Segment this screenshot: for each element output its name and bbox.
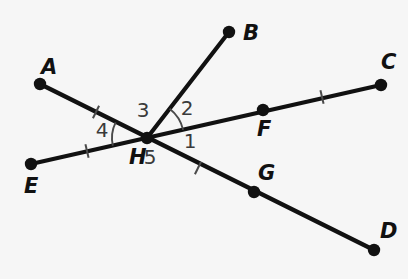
- segment-E-H-F-C: [31, 85, 381, 164]
- tick-marks-group: [85, 90, 323, 174]
- angle-label-1: 1: [184, 129, 197, 153]
- point-label-A: A: [39, 55, 57, 79]
- angle-label-5: 5: [144, 145, 157, 169]
- angle-label-4: 4: [96, 118, 109, 142]
- geometry-canvas: ABCDEFGH 12345: [0, 0, 408, 279]
- point-label-F: F: [257, 117, 272, 141]
- point-dot-D: [368, 244, 380, 256]
- point-dot-C: [375, 79, 387, 91]
- segments-group: [31, 32, 381, 250]
- point-dot-E: [25, 158, 37, 170]
- point-label-G: G: [258, 161, 275, 185]
- angle-label-2: 2: [181, 96, 194, 120]
- point-label-B: B: [243, 21, 259, 45]
- geometry-diagram: ABCDEFGH 12345: [0, 0, 408, 279]
- point-dot-B: [223, 26, 235, 38]
- point-dot-G: [248, 186, 260, 198]
- segment-A-H-G-D: [40, 84, 374, 250]
- point-label-E: E: [24, 174, 39, 198]
- point-dot-A: [34, 78, 46, 90]
- arc-4: [112, 122, 116, 145]
- point-label-C: C: [381, 50, 397, 74]
- point-dot-F: [257, 104, 269, 116]
- point-dot-H: [141, 132, 153, 144]
- angle-label-3: 3: [137, 98, 150, 122]
- point-label-D: D: [380, 219, 397, 243]
